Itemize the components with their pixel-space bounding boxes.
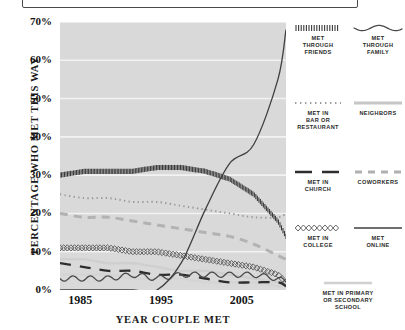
plot-area — [60, 22, 286, 290]
y-tick-label: 50% — [0, 92, 52, 104]
legend-swatch-met-online — [352, 220, 404, 232]
legend-swatch-met-in-primary-or-secondary-school — [322, 275, 374, 287]
legend-item-met-in-bar-or-restaurant[interactable]: MET INBAR ORRESTAURANT — [292, 95, 344, 132]
legend-item-met-in-primary-or-secondary-school[interactable]: MET IN PRIMARYOR SECONDARYSCHOOL — [308, 275, 388, 312]
y-axis-title: PERCENTAGE WHO MET THIS WAY — [29, 36, 40, 276]
legend-item-met-in-college[interactable]: MET INCOLLEGE — [292, 220, 344, 249]
legend-item-met-through-friends[interactable]: METTHROUGHFRIENDS — [292, 20, 344, 57]
legend: METTHROUGHFRIENDSMETTHROUGHFAMILYMET INB… — [292, 20, 404, 290]
legend-label-met-through-family: METTHROUGHFAMILY — [352, 35, 404, 57]
x-tick-label: 2005 — [230, 293, 254, 308]
legend-label-met-in-primary-or-secondary-school: MET IN PRIMARYOR SECONDARYSCHOOL — [308, 290, 388, 312]
legend-item-met-online[interactable]: METONLINE — [352, 220, 404, 249]
title-box-outline — [22, 0, 358, 8]
legend-swatch-met-through-friends — [292, 20, 344, 32]
legend-swatch-met-in-church — [292, 164, 344, 176]
chart-figure: PERCENTAGE WHO MET THIS WAY 0%10%20%30%4… — [0, 0, 405, 330]
legend-label-met-in-church: MET INCHURCH — [292, 179, 344, 193]
legend-swatch-met-through-family — [352, 20, 404, 32]
legend-label-met-through-friends: METTHROUGHFRIENDS — [292, 35, 344, 57]
x-tick-label: 1985 — [68, 293, 92, 308]
legend-label-coworkers: COWORKERS — [352, 179, 404, 186]
legend-label-met-in-college: MET INCOLLEGE — [292, 235, 344, 249]
y-tick-label: 70% — [0, 15, 52, 27]
y-tick-label: 40% — [0, 130, 52, 142]
y-tick-label: 0% — [0, 283, 52, 295]
legend-item-met-through-family[interactable]: METTHROUGHFAMILY — [352, 20, 404, 57]
y-tick-label: 20% — [0, 206, 52, 218]
y-tick-label: 30% — [0, 168, 52, 180]
y-tick-label: 60% — [0, 53, 52, 65]
legend-item-coworkers[interactable]: COWORKERS — [352, 164, 404, 186]
legend-item-neighbors[interactable]: NEIGHBORS — [352, 95, 404, 117]
legend-swatch-coworkers — [352, 164, 404, 176]
legend-item-met-in-church[interactable]: MET INCHURCH — [292, 164, 344, 193]
x-tick-label: 1995 — [149, 293, 173, 308]
y-tick-label: 10% — [0, 245, 52, 257]
legend-label-neighbors: NEIGHBORS — [352, 110, 404, 117]
legend-swatch-neighbors — [352, 95, 404, 107]
legend-label-met-online: METONLINE — [352, 235, 404, 249]
legend-swatch-met-in-bar-or-restaurant — [292, 95, 344, 107]
legend-label-met-in-bar-or-restaurant: MET INBAR ORRESTAURANT — [292, 110, 344, 132]
legend-swatch-met-in-college — [292, 220, 344, 232]
x-axis-title: YEAR COUPLE MET — [60, 314, 286, 325]
